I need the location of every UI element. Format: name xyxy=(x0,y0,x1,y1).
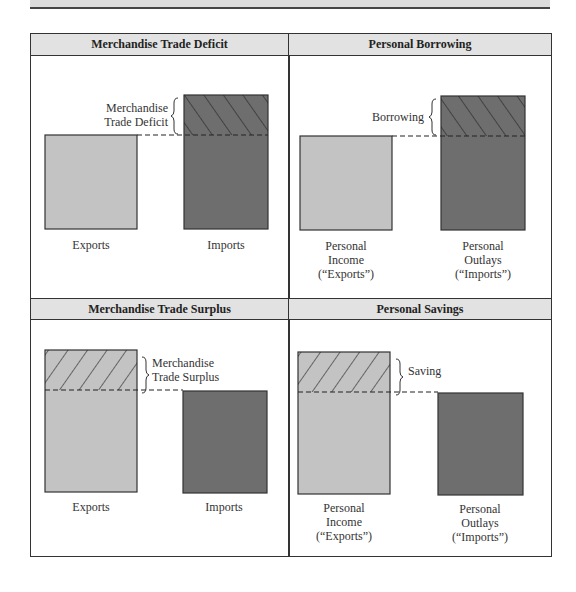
bracket-label: Merchandise xyxy=(152,356,214,370)
borrowing-hatch xyxy=(441,96,525,136)
brace-icon xyxy=(429,99,436,135)
income-bar xyxy=(300,136,392,230)
right-bar-label: Personal xyxy=(462,239,504,253)
svg-text:Income: Income xyxy=(326,515,362,529)
brace-icon xyxy=(171,98,178,134)
diagram-graphics: Merchandise Trade Deficit Exports Import… xyxy=(0,0,576,592)
svg-text:(“Exports”): (“Exports”) xyxy=(318,267,374,281)
brace-icon xyxy=(396,359,403,395)
panel-personal-savings: Saving Personal Income (“Exports”) Perso… xyxy=(298,352,523,544)
right-bar-label: Personal xyxy=(459,502,501,516)
exports-bar xyxy=(45,135,137,229)
svg-text:(“Exports”): (“Exports”) xyxy=(316,529,372,543)
right-bar-label: Imports xyxy=(205,500,243,514)
svg-text:(“Imports”): (“Imports”) xyxy=(452,530,508,544)
svg-text:Trade Deficit: Trade Deficit xyxy=(104,115,169,129)
left-bar-label: Exports xyxy=(72,238,110,252)
svg-text:Outlays: Outlays xyxy=(464,253,502,267)
panel-trade-surplus: Merchandise Trade Surplus Exports Import… xyxy=(45,350,267,514)
saving-hatch xyxy=(298,352,390,392)
brace-icon xyxy=(142,357,149,393)
outlays-bar xyxy=(438,393,523,495)
panel-personal-borrowing: Borrowing Personal Income (“Exports”) Pe… xyxy=(300,96,525,281)
left-bar-label: Exports xyxy=(72,500,110,514)
bracket-label: Saving xyxy=(408,364,441,378)
bracket-label: Merchandise xyxy=(106,101,168,115)
svg-text:Outlays: Outlays xyxy=(461,516,499,530)
bracket-label: Borrowing xyxy=(372,110,424,124)
svg-text:(“Imports”): (“Imports”) xyxy=(455,267,511,281)
deficit-hatch xyxy=(184,95,268,135)
imports-bar xyxy=(183,391,267,493)
svg-text:Income: Income xyxy=(328,253,364,267)
surplus-hatch xyxy=(45,350,137,390)
right-bar-label: Imports xyxy=(207,238,245,252)
panel-trade-deficit: Merchandise Trade Deficit Exports Import… xyxy=(45,95,268,252)
left-bar-label: Personal xyxy=(323,501,365,515)
svg-text:Trade Surplus: Trade Surplus xyxy=(152,370,220,384)
left-bar-label: Personal xyxy=(325,239,367,253)
